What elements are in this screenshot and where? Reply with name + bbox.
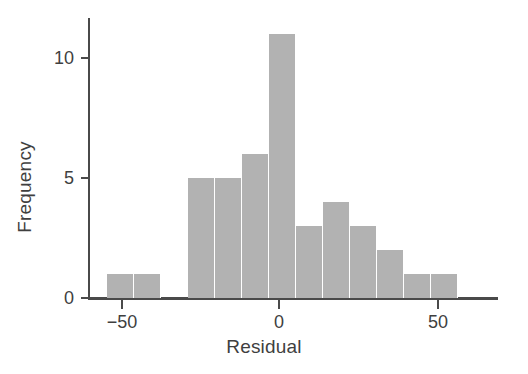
x-axis-label-text: Residual [226, 336, 302, 357]
bar-bin-7 [269, 34, 296, 298]
bar-bin-4 [188, 178, 215, 298]
y-tick-label-10: 10 [34, 49, 74, 67]
x-tick--50 [121, 300, 123, 309]
histogram-figure: Frequency 0510 −50050 Residual [0, 0, 528, 374]
bar-bin-8 [296, 226, 323, 298]
x-tick-label-50: 50 [408, 313, 468, 331]
bar-bin-13 [431, 274, 458, 298]
x-axis-label: Residual [0, 336, 528, 358]
y-axis-line [88, 18, 90, 299]
bar-bin-9 [323, 202, 350, 298]
x-tick-50 [437, 300, 439, 309]
x-tick-label--50: −50 [92, 313, 152, 331]
y-tick-5 [81, 177, 90, 179]
bar-bin-6 [242, 154, 269, 298]
y-tick-label-5: 5 [34, 169, 74, 187]
x-tick-label-0: 0 [249, 313, 309, 331]
bar-bin-5 [215, 178, 242, 298]
x-tick-0 [278, 300, 280, 309]
bar-bin-12 [404, 274, 431, 298]
y-tick-10 [81, 57, 90, 59]
bar-bin-2 [134, 274, 161, 298]
bar-bin-1 [107, 274, 134, 298]
y-tick-0 [81, 297, 90, 299]
y-tick-label-0: 0 [34, 289, 74, 307]
plot-area: 0510 −50050 [0, 0, 528, 374]
bar-bin-10 [350, 226, 377, 298]
bar-bin-11 [377, 250, 404, 298]
